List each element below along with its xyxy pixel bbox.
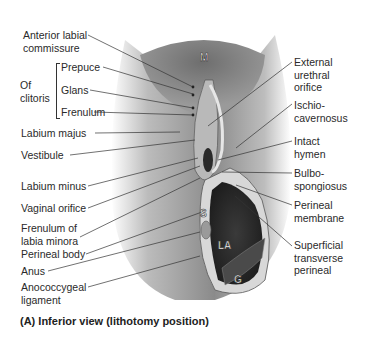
- label-line: perineal: [294, 264, 343, 277]
- label-of-clitoris: Of clitoris: [20, 79, 50, 104]
- region-letter-la: LA: [218, 240, 231, 251]
- figure-caption: (A) Inferior view (lithotomy position): [20, 315, 209, 327]
- label-line: urethral: [294, 69, 333, 82]
- region-letter-m: M: [200, 52, 208, 63]
- label-bulbospongiosus: Bulbo- spongiosus: [294, 167, 347, 192]
- label-line: clitoris: [20, 92, 50, 105]
- label-line: labia minora: [21, 235, 78, 248]
- label-line: membrane: [294, 212, 344, 225]
- label-external-urethral-orifice: External urethral orifice: [294, 56, 333, 94]
- label-line: Anococcygeal: [21, 281, 86, 294]
- label-line: Perineal: [294, 199, 344, 212]
- label-glans: Glans: [61, 84, 88, 97]
- label-labium-majus: Labium majus: [21, 127, 86, 140]
- label-anococcygeal-ligament: Anococcygeal ligament: [21, 281, 86, 306]
- vaginal-orifice-shape: [203, 148, 213, 172]
- label-perineal-membrane: Perineal membrane: [294, 199, 344, 224]
- label-perineal-body: Perineal body: [21, 248, 85, 261]
- label-line: Bulbo-: [294, 167, 347, 180]
- anus-shape: [201, 221, 211, 239]
- label-labium-minus: Labium minus: [21, 180, 86, 193]
- label-line: Superficial: [294, 239, 343, 252]
- label-intact-hymen: Intact hymen: [294, 135, 326, 160]
- label-anus: Anus: [21, 265, 45, 278]
- region-letter-s: S: [200, 208, 207, 219]
- label-vaginal-orifice: Vaginal orifice: [21, 202, 86, 215]
- label-line: transverse: [294, 252, 343, 265]
- label-line: Ischio-: [294, 99, 348, 112]
- label-frenulum-of-labia-minora: Frenulum of labia minora: [21, 222, 78, 247]
- label-superficial-transverse-perineal: Superficial transverse perineal: [294, 239, 343, 277]
- label-line: spongiosus: [294, 180, 347, 193]
- label-line: Intact: [294, 135, 326, 148]
- label-line: Of: [20, 79, 50, 92]
- label-line: orifice: [294, 81, 333, 94]
- label-line: ligament: [21, 294, 86, 307]
- label-line: Anterior labial: [23, 29, 87, 42]
- label-line: commissure: [23, 42, 87, 55]
- label-prepuce: Prepuce: [61, 61, 100, 74]
- region-letter-g: G: [234, 274, 242, 285]
- label-line: hymen: [294, 148, 326, 161]
- label-ischiocavernosus: Ischio- cavernosus: [294, 99, 348, 124]
- label-line: Frenulum of: [21, 222, 78, 235]
- label-line: External: [294, 56, 333, 69]
- clitoris-bracket: [56, 63, 60, 119]
- label-anterior-labial-commissure: Anterior labial commissure: [23, 29, 87, 54]
- label-frenulum: Frenulum: [61, 106, 105, 119]
- label-line: cavernosus: [294, 112, 348, 125]
- label-vestibule: Vestibule: [21, 149, 64, 162]
